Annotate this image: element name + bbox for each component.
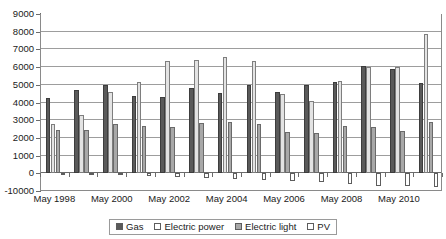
x-tick-label: May 2006 — [254, 194, 314, 204]
bar-electric-light — [228, 122, 233, 173]
bar-pv — [204, 173, 209, 178]
x-tick-mark — [69, 173, 70, 177]
bar-gas — [304, 85, 309, 173]
gridline — [41, 137, 441, 138]
x-tick-mark — [298, 173, 299, 177]
bar-pv — [175, 173, 180, 177]
legend-item-pv[interactable]: PV — [307, 222, 330, 232]
y-tick-mark — [36, 85, 40, 86]
y-tick-label: 6000 — [13, 62, 34, 72]
legend-label: Gas — [126, 222, 143, 232]
bar-electric-power — [366, 67, 371, 173]
y-tick-mark — [36, 138, 40, 139]
x-tick-label: May 1998 — [24, 194, 84, 204]
bar-pv — [405, 173, 410, 186]
plot-area — [40, 14, 442, 191]
bar-electric-power — [338, 81, 343, 173]
gridline — [41, 119, 441, 120]
x-tick-mark — [327, 173, 328, 177]
legend-label: Electric power — [164, 222, 224, 232]
legend-item-electric-power[interactable]: Electric power — [154, 222, 224, 232]
bar-electric-power — [395, 67, 400, 173]
y-tick-mark — [36, 156, 40, 157]
bar-electric-power — [51, 124, 56, 173]
bar-gas — [189, 88, 194, 173]
y-tick-mark — [36, 49, 40, 50]
bar-electric-power — [252, 61, 257, 173]
bar-electric-light — [429, 122, 434, 173]
bar-electric-light — [257, 124, 262, 173]
y-tick-mark — [36, 14, 40, 15]
legend-swatch-icon — [307, 223, 314, 230]
y-tick-label: 7000 — [13, 44, 34, 54]
x-tick-mark — [126, 173, 127, 177]
x-tick-mark — [413, 173, 414, 177]
y-tick-label: 8000 — [13, 27, 34, 37]
gridline — [41, 155, 441, 156]
bar-pv — [233, 173, 238, 179]
bar-pv — [118, 173, 123, 175]
bar-pv — [147, 173, 152, 175]
x-tick-mark — [97, 173, 98, 177]
bar-gas — [103, 85, 108, 173]
x-tick-label: May 2002 — [139, 194, 199, 204]
gridline — [41, 102, 441, 103]
bar-electric-light — [343, 126, 348, 174]
bar-electric-power — [108, 92, 113, 174]
bar-electric-light — [371, 127, 376, 173]
bar-gas — [275, 92, 280, 174]
bar-electric-power — [223, 57, 228, 173]
x-tick-mark — [212, 173, 213, 177]
bar-electric-light — [56, 130, 61, 173]
x-tick-mark — [241, 173, 242, 177]
x-tick-label: May 2000 — [82, 194, 142, 204]
bar-gas — [419, 83, 424, 173]
bar-electric-power — [309, 101, 314, 174]
bar-pv — [376, 173, 381, 185]
bar-pv — [61, 173, 66, 175]
bar-electric-light — [142, 126, 147, 174]
y-tick-label: 0 — [29, 168, 34, 178]
bar-gas — [361, 66, 366, 173]
y-tick-label: 2000 — [13, 133, 34, 143]
bar-pv — [89, 173, 94, 175]
bar-electric-power — [137, 82, 142, 174]
bar-gas — [247, 85, 252, 174]
bar-electric-power — [194, 60, 199, 173]
bar-electric-light — [314, 133, 319, 174]
x-tick-mark — [356, 173, 357, 177]
bar-electric-light — [199, 123, 204, 173]
bar-electric-light — [84, 130, 89, 174]
bar-pv — [262, 173, 267, 179]
x-tick-mark — [155, 173, 156, 177]
x-tick-mark — [442, 173, 443, 177]
bar-chart: 9000800070006000500040003000200010000-10… — [0, 0, 446, 239]
x-tick-mark — [270, 173, 271, 177]
y-tick-label: 3000 — [13, 115, 34, 125]
bar-gas — [74, 90, 79, 173]
bar-electric-light — [400, 131, 405, 173]
x-tick-mark — [40, 173, 41, 177]
chart-legend: GasElectric powerElectric lightPV — [109, 219, 337, 235]
x-tick-mark — [184, 173, 185, 177]
x-tick-label: May 2008 — [312, 194, 372, 204]
bar-gas — [160, 97, 165, 173]
bar-pv — [348, 173, 353, 184]
legend-item-electric-light[interactable]: Electric light — [235, 222, 296, 232]
gridline — [41, 84, 441, 85]
y-tick-label: 4000 — [13, 98, 34, 108]
bar-gas — [132, 96, 137, 174]
legend-label: PV — [317, 222, 330, 232]
legend-label: Electric light — [245, 222, 296, 232]
legend-item-gas[interactable]: Gas — [116, 222, 143, 232]
bar-pv — [319, 173, 324, 181]
legend-swatch-icon — [154, 223, 161, 230]
y-tick-mark — [36, 120, 40, 121]
bar-electric-power — [165, 61, 170, 173]
x-tick-label: May 2010 — [369, 194, 429, 204]
bar-electric-light — [285, 132, 290, 174]
y-tick-mark — [36, 103, 40, 104]
y-tick-mark — [36, 67, 40, 68]
plot-inner — [41, 14, 441, 190]
gridline — [41, 31, 441, 32]
